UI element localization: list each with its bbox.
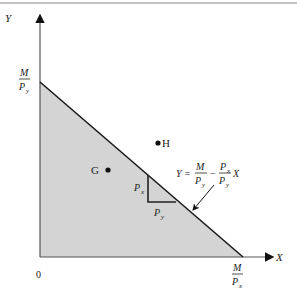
svg-text:P: P bbox=[133, 182, 140, 193]
svg-text:y: y bbox=[201, 181, 206, 189]
svg-text:P: P bbox=[219, 161, 226, 172]
svg-text:Y =: Y = bbox=[176, 168, 191, 179]
svg-text:x: x bbox=[238, 282, 243, 290]
svg-text:M: M bbox=[232, 262, 242, 273]
point-g bbox=[105, 167, 110, 172]
y-axis-label: Y bbox=[5, 12, 13, 24]
svg-text:M: M bbox=[195, 161, 205, 172]
svg-text:x: x bbox=[226, 167, 231, 175]
svg-text:P: P bbox=[231, 276, 238, 287]
svg-text:M: M bbox=[19, 67, 29, 78]
svg-text:−: − bbox=[210, 168, 216, 179]
origin-label: 0 bbox=[36, 269, 41, 280]
budget-constraint-diagram: Y X 0 M P y M P x G H P x P y Y = M P y … bbox=[0, 0, 297, 297]
svg-text:P: P bbox=[153, 207, 160, 218]
budget-equation: Y = M P y − P x P y X bbox=[176, 161, 240, 189]
svg-text:P: P bbox=[18, 81, 25, 92]
y-intercept-label: M P y bbox=[18, 67, 30, 95]
svg-text:y: y bbox=[225, 181, 230, 189]
point-g-label: G bbox=[91, 164, 99, 176]
x-intercept-label: M P x bbox=[231, 262, 243, 290]
svg-text:y: y bbox=[25, 87, 30, 95]
svg-text:X: X bbox=[232, 168, 240, 179]
svg-text:P: P bbox=[218, 175, 225, 186]
point-h bbox=[155, 140, 160, 145]
point-h-label: H bbox=[162, 137, 170, 149]
svg-text:P: P bbox=[194, 175, 201, 186]
x-axis-label: X bbox=[275, 251, 284, 263]
